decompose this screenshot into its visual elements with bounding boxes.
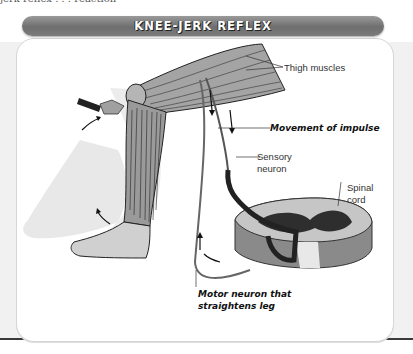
label-spinal-cord-2: cord <box>347 194 365 205</box>
label-motor-neuron-1: Motor neuron that <box>198 289 291 300</box>
motion-arrow-icon <box>82 118 100 130</box>
label-sensory-neuron-2: neuron <box>257 163 287 174</box>
label-thigh-muscles: Thigh muscles <box>284 62 345 73</box>
label-movement-of-impulse: Movement of impulse <box>270 123 380 134</box>
label-sensory-neuron-1: Sensory <box>257 151 292 162</box>
spinal-cord <box>235 198 372 268</box>
label-motor-neuron-2: straightens leg <box>198 301 275 312</box>
label-spinal-cord-1: Spinal <box>347 182 373 193</box>
